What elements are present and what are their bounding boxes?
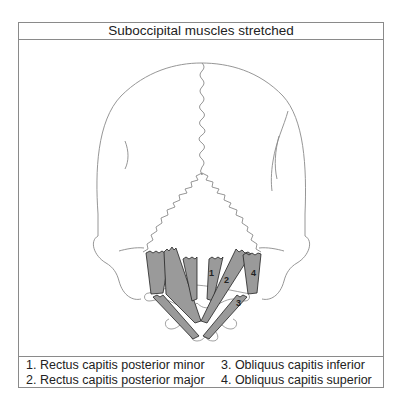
sagittal-suture bbox=[199, 63, 205, 175]
legend-item-obliquus-inferior: 3. Obliquus capitis inferior bbox=[221, 358, 372, 373]
legend-column-right: 3. Obliquus capitis inferior 4. Obliquus… bbox=[221, 358, 372, 388]
legend-item-obliquus-superior: 4. Obliquus capitis superior bbox=[221, 373, 372, 388]
legend-column-left: 1. Rectus capitis posterior minor 2. Rec… bbox=[26, 358, 205, 388]
figure-frame: Suboccipital muscles stretched bbox=[18, 22, 384, 388]
lambdoid-suture bbox=[141, 173, 261, 252]
muscle-label-4: 4 bbox=[251, 268, 256, 278]
muscle-label-2: 2 bbox=[224, 275, 229, 285]
muscle-label-1: 1 bbox=[209, 268, 214, 278]
muscle-label-3: 3 bbox=[236, 298, 241, 308]
legend-item-rectus-minor: 1. Rectus capitis posterior minor bbox=[26, 358, 205, 373]
skull-outline bbox=[93, 63, 309, 299]
skull-illustration: 1 2 3 4 bbox=[19, 40, 383, 356]
legend-item-rectus-major: 2. Rectus capitis posterior major bbox=[26, 373, 205, 388]
figure-legend: 1. Rectus capitis posterior minor 2. Rec… bbox=[19, 356, 383, 388]
